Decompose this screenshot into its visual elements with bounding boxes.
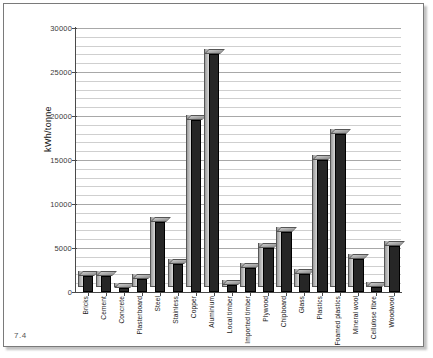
bar-front-face (389, 246, 400, 292)
x-axis-tick-label: Mineral wool (352, 296, 359, 334)
bar-front-face (83, 276, 94, 292)
bar (245, 263, 256, 292)
y-axis-tick-label: 5000 (55, 244, 73, 253)
x-axis-tick (358, 292, 359, 296)
x-axis-tick (106, 292, 107, 296)
x-axis-tick-label: Glass (298, 296, 305, 313)
y-axis-tick-label: 25000 (50, 68, 72, 77)
bar (191, 115, 202, 292)
bar (155, 217, 166, 292)
x-axis-tick-label: Concrete (118, 296, 125, 324)
bar (137, 274, 148, 292)
bar-front-face (263, 248, 274, 292)
bar (227, 280, 238, 292)
x-axis-tick (322, 292, 323, 296)
x-axis-tick (376, 292, 377, 296)
bar-front-face (281, 232, 292, 292)
x-axis-tick (178, 292, 179, 296)
x-axis-tick-label: Cement (100, 296, 107, 320)
bar-front-face (209, 54, 220, 292)
x-axis-tick-label: Steel (154, 296, 161, 312)
x-axis-tick (124, 292, 125, 296)
x-axis-tick (88, 292, 89, 296)
x-axis-tick-label: Local timber (226, 296, 233, 333)
y-axis-tick (72, 204, 77, 205)
bar-front-face (299, 274, 310, 292)
bar-front-face (155, 222, 166, 292)
figure-frame: kWh/tonne 050001000015000200002500030000… (3, 3, 424, 347)
y-axis-tick-label: 20000 (50, 112, 72, 121)
x-axis-tick-label: Chipboard (280, 296, 287, 327)
x-axis-tick (250, 292, 251, 296)
figure-number: 7.4 (14, 331, 27, 340)
bar-front-face (137, 279, 148, 292)
x-axis-tick-label: Woodwool (388, 296, 395, 327)
bar-front-face (173, 264, 184, 292)
y-axis-tick-labels: 050001000015000200002500030000 (4, 28, 72, 292)
x-axis-tick-label: Imported timber (244, 296, 251, 344)
bar (371, 282, 382, 292)
x-axis-tick-label: Cellulose fibre (370, 296, 377, 339)
bar-front-face (191, 120, 202, 292)
bar (83, 271, 94, 292)
x-axis-tick (340, 292, 341, 296)
x-axis-tick-label: Bricks (82, 296, 89, 315)
x-axis-tick-label: Aluminium (208, 296, 215, 328)
x-axis-tick-labels: BricksCementConcretePlasterboardSteelSta… (76, 296, 401, 358)
x-axis-tick-label: Plasterboard (136, 296, 143, 335)
x-axis-tick-label: Stainless (172, 296, 179, 324)
bar-front-face (245, 268, 256, 292)
bar (119, 283, 130, 292)
y-axis-tick (72, 72, 77, 73)
y-axis-tick (72, 116, 77, 117)
bar (281, 227, 292, 292)
plot-area (76, 28, 401, 292)
bar (263, 243, 274, 292)
y-axis-tick-label: 30000 (50, 24, 72, 33)
x-axis-tick (232, 292, 233, 296)
x-axis-tick (160, 292, 161, 296)
bar (317, 155, 328, 292)
bar (335, 129, 346, 292)
bar-front-face (317, 160, 328, 292)
bar (101, 271, 112, 292)
x-axis-tick-label: Copper (190, 296, 197, 318)
bar-front-face (353, 259, 364, 292)
x-axis-tick-label: Plywood (262, 296, 269, 322)
x-axis-tick (268, 292, 269, 296)
x-axis-tick (394, 292, 395, 296)
bar-front-face (335, 134, 346, 292)
x-axis-tick-label: Foamed plastics (334, 296, 341, 346)
bar (353, 254, 364, 292)
y-axis-tick (72, 160, 77, 161)
y-axis-tick-label: 15000 (50, 156, 72, 165)
x-axis-tick (196, 292, 197, 296)
y-axis-tick-label: 10000 (50, 200, 72, 209)
bar-series (76, 28, 401, 292)
y-axis-tick (72, 248, 77, 249)
bar (209, 49, 220, 292)
x-axis-tick-label: Plastics (316, 296, 323, 320)
x-axis-tick (214, 292, 215, 296)
bar (299, 269, 310, 292)
y-axis-tick (72, 28, 77, 29)
bar (389, 241, 400, 292)
bar-front-face (227, 285, 238, 292)
x-axis-tick (304, 292, 305, 296)
x-axis-tick (142, 292, 143, 296)
bar-front-face (101, 276, 112, 292)
x-axis-tick (286, 292, 287, 296)
y-axis-tick (72, 292, 77, 293)
bar (173, 259, 184, 292)
